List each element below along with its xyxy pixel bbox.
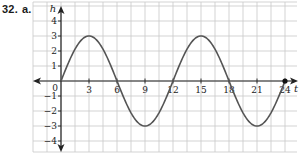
x-axis-label: t	[294, 83, 299, 94]
x-tick-label: 21	[251, 85, 262, 95]
axes	[33, 6, 298, 152]
y-tick-label: 2	[51, 46, 57, 56]
x-tick-label: 15	[195, 85, 207, 95]
x-tick-label: 3	[86, 85, 92, 95]
x-tick-label: 9	[142, 85, 148, 95]
grid-lines	[33, 2, 297, 152]
y-tick-label: −3	[44, 121, 58, 131]
y-tick-label: 3	[51, 31, 57, 41]
y-tick-label: −2	[44, 106, 57, 116]
y-tick-label: 4	[51, 16, 57, 26]
endpoint-dot	[282, 78, 287, 83]
y-tick-label: −4	[44, 136, 58, 146]
y-tick-label: 1	[51, 61, 57, 71]
origin-label: 0	[52, 83, 58, 93]
sine-graph: 36912151821244321−1−2−3−40ht	[0, 0, 300, 157]
y-axis-label: h	[50, 3, 56, 14]
